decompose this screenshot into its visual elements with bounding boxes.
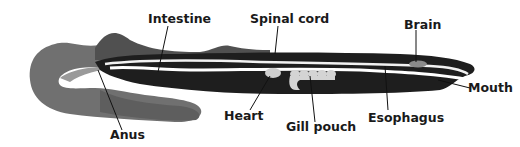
label-gill-pouch: Gill pouch <box>286 121 356 134</box>
label-intestine: Intestine <box>148 13 211 26</box>
heart-organ <box>265 68 281 78</box>
label-mouth: Mouth <box>468 82 513 95</box>
label-heart: Heart <box>224 110 264 123</box>
label-anus: Anus <box>110 129 145 142</box>
label-brain: Brain <box>404 19 441 32</box>
label-spinal-cord: Spinal cord <box>250 13 329 26</box>
label-esophagus: Esophagus <box>368 112 444 125</box>
anatomy-diagram: Intestine Spinal cord Brain Mouth Esopha… <box>0 0 520 147</box>
brain-organ <box>409 61 427 68</box>
